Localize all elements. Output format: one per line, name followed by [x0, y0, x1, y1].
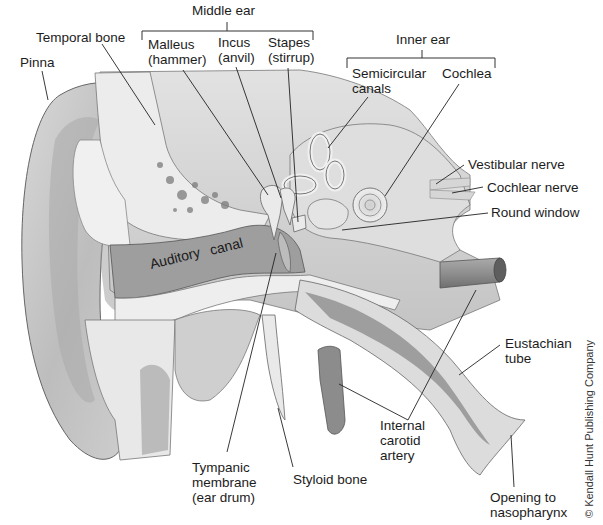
- label-semicircular-canals: Semicircular canals: [352, 66, 426, 96]
- label-stapes-line2: (stirrup): [268, 50, 315, 65]
- label-styloid-bone: Styloid bone: [293, 472, 367, 487]
- label-eustachian-line1: Eustachian: [505, 336, 572, 351]
- vestibule: [308, 199, 349, 229]
- internal-carotid-artery: [318, 346, 345, 434]
- label-stapes: Stapes (stirrup): [268, 35, 315, 65]
- label-internal-carotid-artery: Internal carotid artery: [380, 418, 425, 463]
- label-eustachian-tube: Eustachian tube: [505, 336, 572, 366]
- label-carotid-line2: carotid: [380, 433, 425, 448]
- cochlear-nerve-shape: [430, 190, 475, 200]
- label-tympanic-line2: membrane: [192, 475, 257, 490]
- label-incus-line2: (anvil): [218, 50, 255, 65]
- label-malleus-line1: Malleus: [148, 37, 207, 52]
- label-tympanic-line1: Tympanic: [192, 460, 257, 475]
- label-opening-to-nasopharynx: Opening to nasopharynx: [490, 490, 567, 520]
- label-malleus-line2: (hammer): [148, 52, 207, 67]
- label-carotid-line3: artery: [380, 448, 425, 463]
- lower-fold: [140, 365, 170, 455]
- vessel-opening: [494, 258, 506, 282]
- label-round-window: Round window: [491, 205, 580, 220]
- label-tympanic-line3: (ear drum): [192, 490, 257, 505]
- label-cochlear-nerve: Cochlear nerve: [487, 180, 579, 195]
- label-incus-line1: Incus: [218, 35, 255, 50]
- ear-illustration: [0, 0, 603, 525]
- ear-anatomy-diagram: Middle ear Inner ear Temporal bone Pinna…: [0, 0, 603, 525]
- label-incus: Incus (anvil): [218, 35, 255, 65]
- cochlea: [353, 188, 387, 222]
- label-malleus: Malleus (hammer): [148, 37, 207, 67]
- copyright-notice: © Kendall Hunt Publishing Company: [583, 340, 595, 518]
- middle-ear-heading: Middle ear: [192, 3, 255, 18]
- label-tympanic-membrane: Tympanic membrane (ear drum): [192, 460, 257, 505]
- label-semicircular-line1: Semicircular: [352, 66, 426, 81]
- label-eustachian-line2: tube: [505, 351, 572, 366]
- label-carotid-line1: Internal: [380, 418, 425, 433]
- inner-ear-heading: Inner ear: [396, 32, 450, 47]
- label-pinna: Pinna: [20, 55, 55, 70]
- label-cochlea: Cochlea: [442, 66, 492, 81]
- mastoid-lobe: [175, 310, 260, 401]
- label-stapes-line1: Stapes: [268, 35, 315, 50]
- label-opening-line2: nasopharynx: [490, 505, 567, 520]
- styloid-process: [262, 315, 285, 420]
- label-vestibular-nerve: Vestibular nerve: [468, 157, 565, 172]
- label-opening-line1: Opening to: [490, 490, 567, 505]
- label-temporal-bone: Temporal bone: [36, 30, 125, 45]
- label-semicircular-line2: canals: [352, 81, 426, 96]
